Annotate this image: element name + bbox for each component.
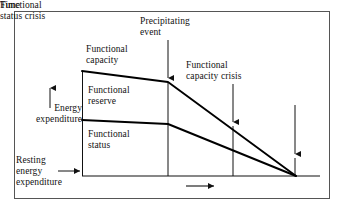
resting-energy-expenditure-label: Resting energy expenditure [16,155,80,188]
precipitating-event-label: Precipitating event [140,16,218,38]
functional-reserve-label: Functional reserve [88,85,158,107]
functional-capacity-label: Functional capacity [86,44,158,66]
functional-capacity-crisis-label: Functional capacity crisis [186,60,278,82]
functional-status-label: Functional status [88,129,158,151]
y-axis-label: Energy expenditure [16,103,82,125]
x-axis-label: Time [0,0,20,11]
figure-container: Energy expenditure Resting energy expend… [0,0,344,210]
